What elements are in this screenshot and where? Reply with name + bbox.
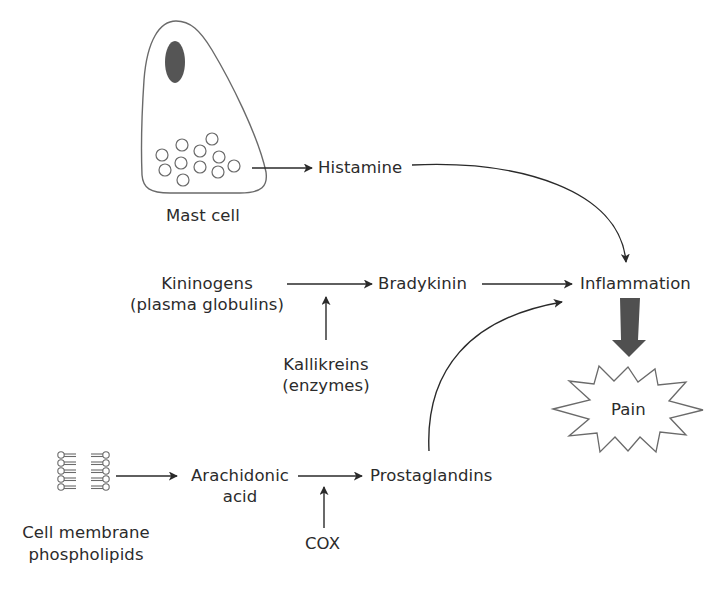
cox-label: COX [305, 534, 340, 554]
cell-membrane-label: Cell membrane [20, 523, 152, 543]
bradykinin-label: Bradykinin [378, 274, 467, 294]
pain-label: Pain [611, 400, 646, 420]
kallikreins-label: Kallikreins [276, 355, 376, 375]
arrow-histamine-to-inflammation [412, 164, 626, 262]
prostaglandins-label: Prostaglandins [370, 466, 493, 486]
thick-arrow-inflammation-to-pain [612, 298, 646, 357]
phospholipid-bilayer-icon [58, 452, 109, 490]
mast-cell-label: Mast cell [166, 206, 240, 226]
plasma-globulins-label: (plasma globulins) [129, 295, 285, 315]
diagram-canvas [0, 0, 725, 598]
arrow-prostaglandins-to-inflammation [429, 302, 562, 451]
granules-icon [156, 133, 240, 186]
histamine-label: Histamine [318, 158, 402, 178]
mast-cell-icon [142, 21, 267, 193]
enzymes-label: (enzymes) [276, 376, 376, 396]
phospholipids-label: phospholipids [20, 545, 152, 565]
nucleus-icon [165, 41, 185, 83]
inflammation-label: Inflammation [580, 274, 691, 294]
arachidonic-label: Arachidonic [184, 466, 296, 486]
acid-label: acid [184, 487, 296, 507]
kininogens-label: Kininogens [129, 274, 285, 294]
